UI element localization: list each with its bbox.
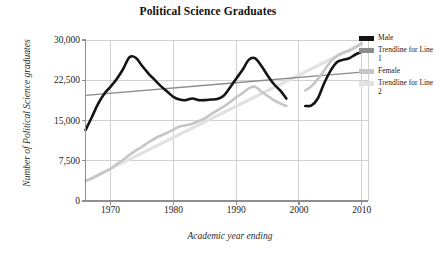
chart-legend: MaleTrendline for Line 1FemaleTrendline … <box>359 33 439 99</box>
legend-swatch <box>359 69 374 74</box>
legend-label: Female <box>378 66 400 75</box>
chart-container: Political Science Graduates Number of Po… <box>0 0 440 259</box>
x-axis-title: Academic year ending <box>85 231 375 241</box>
x-tick-label: 1980 <box>153 205 193 215</box>
x-tick-label: 1970 <box>91 205 131 215</box>
legend-item[interactable]: Female <box>359 66 439 75</box>
legend-item[interactable]: Trendline for Line 2 <box>359 78 439 96</box>
legend-item[interactable]: Male <box>359 33 439 42</box>
legend-swatch <box>359 48 374 53</box>
legend-label: Trendline for Line 1 <box>378 45 436 63</box>
legend-item[interactable]: Trendline for Line 1 <box>359 45 439 63</box>
legend-swatch <box>359 36 374 41</box>
legend-label: Trendline for Line 2 <box>378 78 436 96</box>
legend-label: Male <box>378 33 393 42</box>
x-tick-label: 2010 <box>342 205 382 215</box>
x-tick-label: 2000 <box>279 205 319 215</box>
legend-swatch <box>359 81 374 86</box>
x-tick-label: 1990 <box>216 205 256 215</box>
